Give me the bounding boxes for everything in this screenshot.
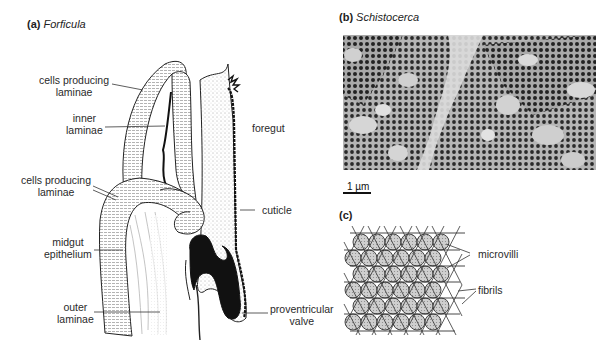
label-line: valve — [270, 315, 334, 327]
label-foregut: foregut — [252, 122, 285, 134]
label-line: epithelium — [44, 248, 92, 260]
label-line: midgut — [44, 236, 92, 248]
label-cells-producing-laminae-top: cells producing laminae — [39, 74, 109, 98]
label-line: laminae — [66, 124, 103, 136]
label-cells-producing-laminae-mid: cells producing laminae — [21, 174, 91, 198]
label-line: laminae — [39, 86, 109, 98]
label-cuticle: cuticle — [262, 204, 292, 216]
label-line: inner — [66, 112, 103, 124]
label-proventricular-valve: proventricular valve — [270, 303, 334, 327]
label-outer-laminae: outer laminae — [57, 301, 94, 325]
label-line: laminae — [21, 186, 91, 198]
label-line: laminae — [57, 313, 94, 325]
label-line: cells producing — [21, 174, 91, 186]
label-fibrils: fibrils — [478, 284, 503, 296]
hexagonal-lattice — [344, 226, 476, 335]
scale-bar — [343, 192, 371, 194]
label-midgut-epithelium: midgut epithelium — [44, 236, 92, 260]
label-microvilli: microvilli — [478, 248, 518, 260]
label-line: outer — [57, 301, 94, 313]
scale-bar-label: 1 µm — [345, 181, 371, 192]
sem-micrograph — [343, 35, 596, 170]
label-line: proventricular — [270, 303, 334, 315]
label-inner-laminae: inner laminae — [66, 112, 103, 136]
label-line: cells producing — [39, 74, 109, 86]
